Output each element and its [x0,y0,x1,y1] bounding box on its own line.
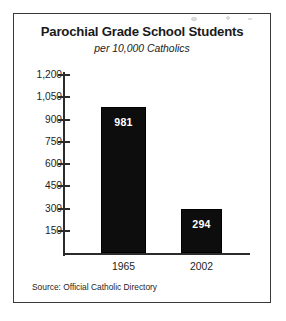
y-tick-mark [58,141,70,143]
x-axis-line [63,253,250,255]
x-category-label: 2002 [169,260,234,274]
y-tick-mark [58,208,70,210]
x-category-label: 1965 [89,260,158,274]
y-tick: 1,200 [14,69,76,81]
bar-value-label: 294 [182,218,221,230]
y-tick-mark [58,96,70,98]
y-tick: 750 [14,136,76,148]
y-tick: 900 [14,114,76,126]
bar: 981 [101,107,146,253]
bar-value-label: 981 [102,116,145,128]
y-tick-mark [58,185,70,187]
bar: 294 [181,209,222,253]
y-tick: 1,050 [14,91,76,103]
y-tick: 300 [14,203,76,215]
y-tick-mark [58,119,70,121]
y-tick: 450 [14,180,76,192]
plot-area: 1,2001,050900750600450300150 981294 1965… [14,14,270,302]
chart-figure: Parochial Grade School Students per 10,0… [13,13,271,303]
y-tick: 150 [14,225,76,237]
source-note: Source: Official Catholic Directory [32,282,157,292]
y-tick-mark [58,163,70,165]
y-tick: 600 [14,158,76,170]
y-tick-mark [58,74,70,76]
y-tick-mark [58,230,70,232]
